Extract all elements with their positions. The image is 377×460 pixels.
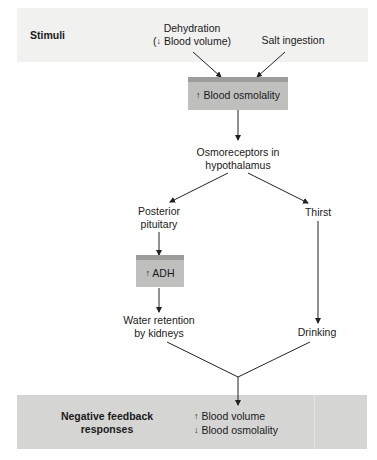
dehydration-text: Dehydration bbox=[164, 22, 221, 34]
box-bevel bbox=[136, 255, 184, 260]
outcome-blood-volume: Blood volume bbox=[201, 410, 265, 422]
stimulus-salt-ingestion: Salt ingestion bbox=[253, 34, 333, 47]
thirst-node: Thirst bbox=[293, 206, 343, 219]
arrow-salt-to-osmolality bbox=[257, 52, 285, 77]
up-arrow-icon: ↑ bbox=[196, 90, 201, 100]
negative-feedback-label: Negative feedback responses bbox=[52, 410, 162, 435]
stimulus-dehydration: Dehydration (↓ Blood volume) bbox=[142, 22, 242, 48]
adh-text: ADH bbox=[152, 267, 174, 279]
down-arrow-icon: ↓ bbox=[156, 36, 161, 46]
water-retention-node: Water retention by kidneys bbox=[114, 314, 204, 339]
blood-osmolality-box: ↑ Blood osmolality bbox=[188, 77, 288, 110]
adh-box: ↑ ADH bbox=[136, 255, 184, 287]
drinking-node: Drinking bbox=[292, 326, 342, 339]
arrow-to-thirst bbox=[248, 173, 308, 203]
arrow-to-posterior-pituitary bbox=[170, 173, 228, 202]
blood-osmolality-text: Blood osmolality bbox=[203, 89, 279, 101]
outcome-blood-osmolality: Blood osmolality bbox=[201, 424, 277, 436]
stimuli-label: Stimuli bbox=[30, 29, 65, 42]
arrow-dehydration-to-osmolality bbox=[193, 52, 221, 77]
osmoreceptors-node: Osmoreceptors in hypothalamus bbox=[178, 146, 298, 171]
flow-arrows bbox=[0, 0, 377, 460]
line-drinking-to-junction bbox=[238, 342, 310, 377]
response-outcomes: ↑ Blood volume ↓ Blood osmolality bbox=[194, 410, 278, 437]
up-arrow-icon: ↑ bbox=[194, 411, 199, 421]
box-bevel bbox=[188, 77, 288, 82]
line-water-to-junction bbox=[167, 342, 238, 377]
up-arrow-icon: ↑ bbox=[145, 268, 150, 278]
posterior-pituitary-node: Posterior pituitary bbox=[119, 205, 199, 230]
down-arrow-icon: ↓ bbox=[194, 425, 199, 435]
